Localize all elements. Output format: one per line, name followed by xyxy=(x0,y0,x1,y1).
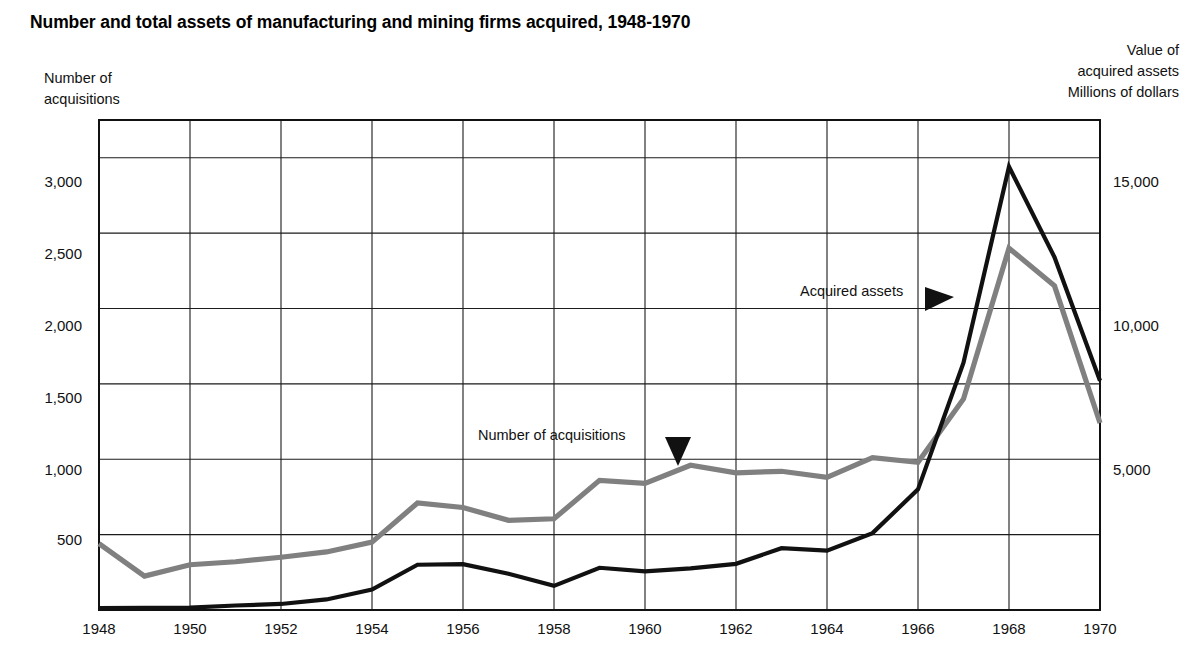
plot-frame xyxy=(99,120,1100,610)
gridlines xyxy=(99,120,1100,610)
annotation-arrow-acquisitions-icon xyxy=(665,437,691,466)
chart-figure: Number and total assets of manufacturing… xyxy=(0,0,1197,654)
annotation-arrow-assets-icon xyxy=(925,287,954,311)
plot-area xyxy=(0,0,1197,654)
